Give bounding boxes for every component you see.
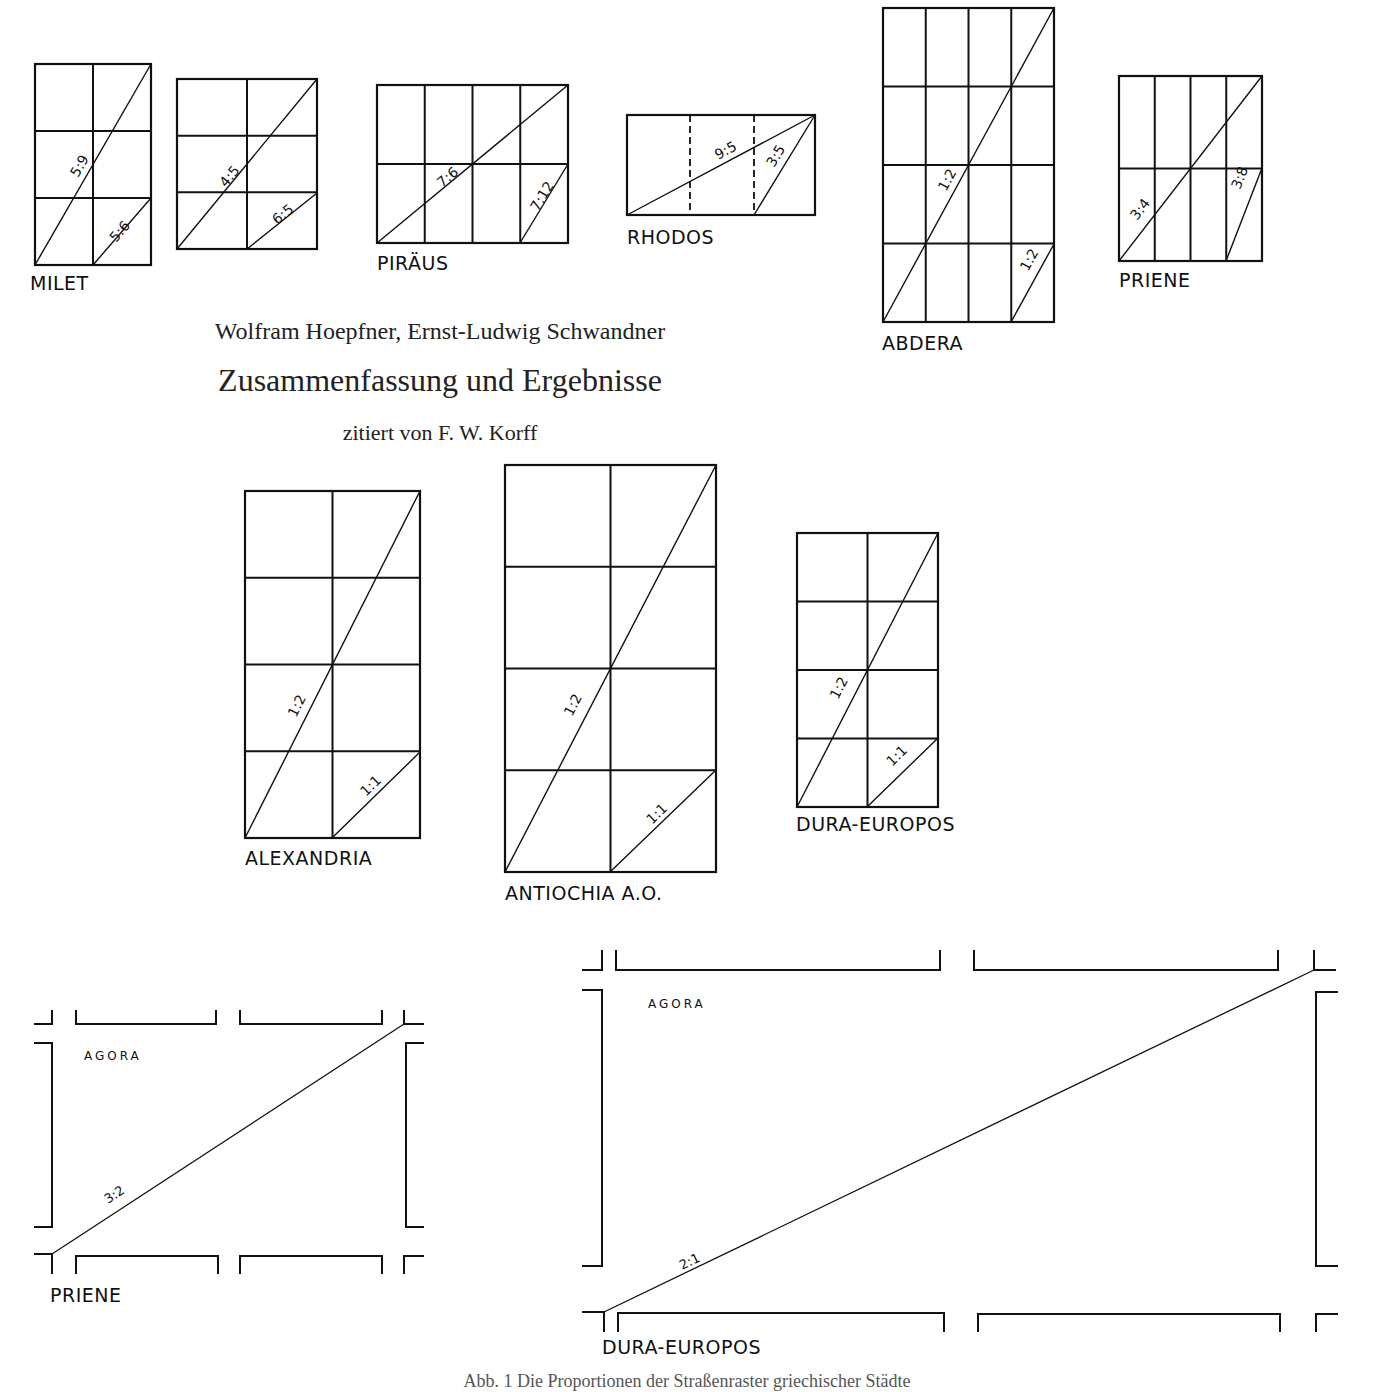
street-block-outline (616, 950, 940, 970)
figure-caption: Abb. 1 Die Proportionen der Straßenraste… (0, 1371, 1374, 1392)
grid-piraeus: 7:67:12PIRÄUS (377, 85, 568, 274)
street-block-outline (76, 1010, 216, 1024)
city-label: DURA-EUROPOS (796, 813, 955, 835)
page-title: Zusammenfassung und Ergebnisse (0, 362, 880, 399)
street-block-outline (404, 1010, 424, 1024)
city-label: PIRÄUS (377, 252, 448, 274)
ratio-label: 3:4 (1127, 195, 1153, 223)
street-block-outline (34, 1043, 52, 1227)
ratio-label: 1:1 (883, 742, 910, 769)
diagonal-line (332, 752, 420, 838)
ratio-label: 5:9 (67, 152, 92, 180)
ratio-label: 1:1 (643, 800, 670, 827)
street-block-outline (1316, 1314, 1338, 1332)
street-block-outline (1316, 992, 1338, 1266)
city-label: ANTIOCHIA A.O. (505, 882, 663, 904)
ratio-label: 1:2 (284, 692, 308, 719)
diagonal-line (627, 115, 815, 215)
street-block-outline (240, 1256, 382, 1274)
grid-milet: 5:95:6MILET (30, 64, 151, 294)
street-block-outline (76, 1256, 218, 1274)
grid-dura-europos: 1:21:1DURA-EUROPOS (796, 533, 955, 835)
city-label: PRIENE (50, 1284, 122, 1306)
street-block-outline (582, 950, 602, 970)
ratio-label: 6:5 (269, 201, 297, 228)
citation-line: zitiert von F. W. Korff (0, 420, 880, 446)
street-block-outline (240, 1010, 382, 1024)
ratio-label: 9:5 (712, 138, 739, 163)
ratio-label: 5:6 (106, 217, 133, 245)
ratio-label: 2:1 (677, 1250, 702, 1273)
agora-label: AGORA (84, 1049, 142, 1063)
authors-line: Wolfram Hoepfner, Ernst-Ludwig Schwandne… (0, 318, 880, 345)
city-label: PRIENE (1119, 269, 1191, 291)
ratio-label: 7:12 (527, 178, 557, 213)
grid-milet-2: 4:56:5 (177, 79, 317, 249)
grid-rhodos: 9:53:5RHODOS (627, 115, 815, 248)
street-block-outline (978, 1314, 1280, 1332)
street-block-outline (582, 990, 602, 1266)
agora-priene: 3:2AGORAPRIENE (34, 1010, 424, 1306)
city-label: ABDERA (882, 332, 963, 354)
city-label: RHODOS (627, 226, 714, 248)
agora-diagrams: 3:2AGORAPRIENE2:1AGORADURA-EUROPOS (34, 950, 1338, 1358)
street-block-outline (406, 1043, 424, 1227)
city-label: DURA-EUROPOS (602, 1336, 761, 1358)
ratio-label: 7:6 (434, 164, 462, 191)
ratio-label: 1:2 (560, 691, 585, 718)
street-block-outline (1314, 950, 1336, 970)
street-block-outline (974, 950, 1278, 970)
street-block-outline (404, 1256, 424, 1274)
diagonal-line (604, 970, 1314, 1312)
grid-diagrams: 5:95:6MILET4:56:57:67:12PIRÄUS9:53:5RHOD… (30, 8, 1262, 904)
street-block-outline (34, 1254, 52, 1274)
agora-dura: 2:1AGORADURA-EUROPOS (582, 950, 1338, 1358)
street-block-outline (618, 1313, 944, 1332)
agora-label: AGORA (648, 997, 706, 1011)
ratio-label: 1:2 (1017, 246, 1042, 273)
ratio-label: 1:2 (826, 674, 851, 701)
grid-abdera: 1:21:2ABDERA (882, 8, 1054, 354)
street-block-outline (582, 1312, 604, 1332)
city-label: MILET (30, 272, 89, 294)
ratio-label: 1:1 (357, 772, 384, 799)
city-label: ALEXANDRIA (245, 847, 372, 869)
street-block-outline (34, 1010, 52, 1024)
grid-alexandria: 1:21:1ALEXANDRIA (245, 491, 420, 869)
grid-priene: 3:43:8PRIENE (1119, 76, 1262, 291)
ratio-label: 4:5 (216, 162, 243, 190)
grid-antiochia: 1:21:1ANTIOCHIA A.O. (505, 465, 716, 904)
diagonal-line (754, 115, 815, 215)
diagonal-line (610, 770, 716, 872)
ratio-label: 3:2 (101, 1183, 127, 1207)
